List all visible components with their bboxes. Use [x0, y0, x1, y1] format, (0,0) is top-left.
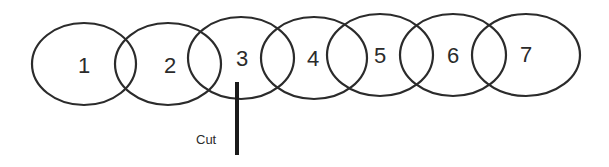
ring-label: 6	[447, 43, 459, 68]
ring-label: 2	[164, 53, 176, 78]
ring-7: 7	[472, 14, 580, 96]
ring-label: 7	[520, 42, 532, 67]
cut-marker: Cut	[196, 82, 237, 155]
ring-1: 1	[32, 23, 136, 105]
ring-3: 3	[188, 17, 294, 99]
ring-label: 4	[307, 46, 319, 71]
ring-5: 5	[327, 14, 433, 96]
ring-label: 1	[78, 53, 90, 78]
ring-4: 4	[261, 17, 367, 99]
ring-6: 6	[400, 14, 506, 96]
cut-label: Cut	[196, 132, 217, 147]
chain-rings-diagram: 1 2 3 4 5 6 7 Cut	[0, 0, 609, 167]
ring-label: 3	[236, 46, 248, 71]
ring-label: 5	[374, 43, 386, 68]
ring-2: 2	[115, 23, 221, 105]
